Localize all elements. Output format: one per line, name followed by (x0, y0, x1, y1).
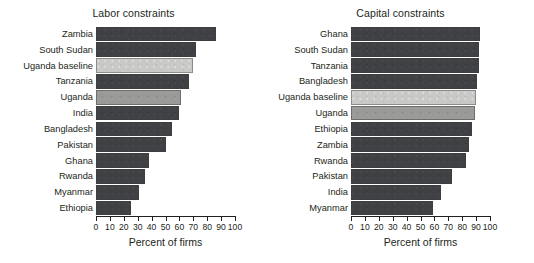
bar-row: Zambia (267, 137, 534, 153)
category-label: Tanzania (56, 76, 93, 86)
category-label: India (328, 187, 348, 197)
category-label: Myanmar (54, 187, 93, 197)
category-label: Tanzania (311, 61, 348, 71)
bar-india (351, 185, 441, 200)
figure-two-panel-bar-charts: Labor constraints ZambiaSouth SudanUgand… (0, 0, 534, 263)
category-label: Uganda (315, 108, 348, 118)
x-tick-label: 60 (430, 222, 440, 232)
x-tick (96, 217, 97, 221)
x-tick-label: 60 (175, 222, 185, 232)
bar-ethiopia (96, 201, 131, 216)
plot-area-left: ZambiaSouth SudanUganda baselineTanzania… (0, 26, 267, 216)
x-tick-label: 20 (119, 222, 129, 232)
bar-uganda-baseline (96, 58, 193, 73)
bar-row: Bangladesh (0, 121, 267, 137)
panel-capital-constraints: Capital constraints GhanaSouth SudanTanz… (267, 0, 534, 263)
x-axis-title-left: Percent of firms (96, 236, 235, 248)
category-label: South Sudan (294, 45, 348, 55)
bar-ghana (351, 27, 480, 42)
x-tick (365, 217, 366, 221)
x-tick-label: 40 (402, 222, 412, 232)
bar-rows-left: ZambiaSouth SudanUganda baselineTanzania… (0, 26, 267, 216)
x-tick (393, 217, 394, 221)
bar-row: Zambia (0, 26, 267, 42)
x-tick-label: 0 (94, 222, 99, 232)
chart-title-right: Capital constraints (267, 7, 534, 19)
x-tick-label: 90 (471, 222, 481, 232)
x-tick (221, 217, 222, 221)
x-tick (351, 217, 352, 221)
x-axis-title-right: Percent of firms (351, 236, 490, 248)
x-tick (179, 217, 180, 221)
x-tick (448, 217, 449, 221)
category-label: Uganda (60, 92, 93, 102)
category-label: Pakistan (57, 140, 93, 150)
x-tick-label: 80 (202, 222, 212, 232)
x-tick-label: 50 (416, 222, 426, 232)
x-tick (152, 217, 153, 221)
bar-myanmar (96, 185, 139, 200)
bar-bangladesh (96, 122, 172, 137)
x-tick-label: 30 (133, 222, 143, 232)
bar-uganda (351, 106, 475, 121)
bar-tanzania (351, 58, 479, 73)
bar-row: Bangladesh (267, 74, 534, 90)
x-tick (490, 217, 491, 221)
category-label: Ghana (320, 29, 348, 39)
plot-area-right: GhanaSouth SudanTanzaniaBangladeshUganda… (267, 26, 534, 216)
bar-uganda-baseline (351, 90, 476, 105)
x-tick (421, 217, 422, 221)
x-tick-label: 0 (349, 222, 354, 232)
bar-rwanda (96, 169, 145, 184)
x-tick (193, 217, 194, 221)
category-label: Uganda baseline (278, 92, 348, 102)
bar-rwanda (351, 153, 466, 168)
x-tick-label: 10 (360, 222, 370, 232)
x-tick-label: 70 (189, 222, 199, 232)
x-tick-label: 30 (388, 222, 398, 232)
bar-row: Tanzania (267, 58, 534, 74)
x-tick-label: 20 (374, 222, 384, 232)
bar-uganda (96, 90, 181, 105)
bar-bangladesh (351, 74, 477, 89)
bar-row: Uganda (0, 89, 267, 105)
chart-title-left: Labor constraints (0, 7, 267, 19)
panel-labor-constraints: Labor constraints ZambiaSouth SudanUgand… (0, 0, 267, 263)
x-tick (235, 217, 236, 221)
bar-row: Ethiopia (0, 200, 267, 216)
x-tick-label: 100 (228, 222, 242, 232)
category-label: South Sudan (39, 45, 93, 55)
x-tick (166, 217, 167, 221)
x-tick (110, 217, 111, 221)
category-label: Uganda baseline (23, 61, 93, 71)
bar-row: Pakistan (267, 169, 534, 185)
bar-tanzania (96, 74, 189, 89)
x-tick (462, 217, 463, 221)
category-label: Zambia (62, 29, 93, 39)
x-tick-label: 50 (161, 222, 171, 232)
category-label: Zambia (317, 140, 348, 150)
x-tick-label: 100 (483, 222, 497, 232)
bar-row: Uganda baseline (267, 89, 534, 105)
x-tick-label: 70 (444, 222, 454, 232)
bar-myanmar (351, 201, 433, 216)
x-tick (138, 217, 139, 221)
bar-pakistan (96, 137, 166, 152)
bar-row: Tanzania (0, 74, 267, 90)
category-label: Ethiopia (314, 124, 348, 134)
category-label: Myanmar (309, 203, 348, 213)
bar-row: Myanmar (267, 200, 534, 216)
x-tick (434, 217, 435, 221)
x-tick-label: 90 (216, 222, 226, 232)
bar-zambia (96, 27, 216, 42)
bar-ghana (96, 153, 149, 168)
x-tick (476, 217, 477, 221)
bar-row: India (267, 184, 534, 200)
bar-row: Pakistan (0, 137, 267, 153)
x-tick (379, 217, 380, 221)
bar-row: Myanmar (0, 184, 267, 200)
category-label: India (73, 108, 93, 118)
bar-row: Rwanda (267, 153, 534, 169)
bar-ethiopia (351, 122, 472, 137)
bar-row: South Sudan (267, 42, 534, 58)
